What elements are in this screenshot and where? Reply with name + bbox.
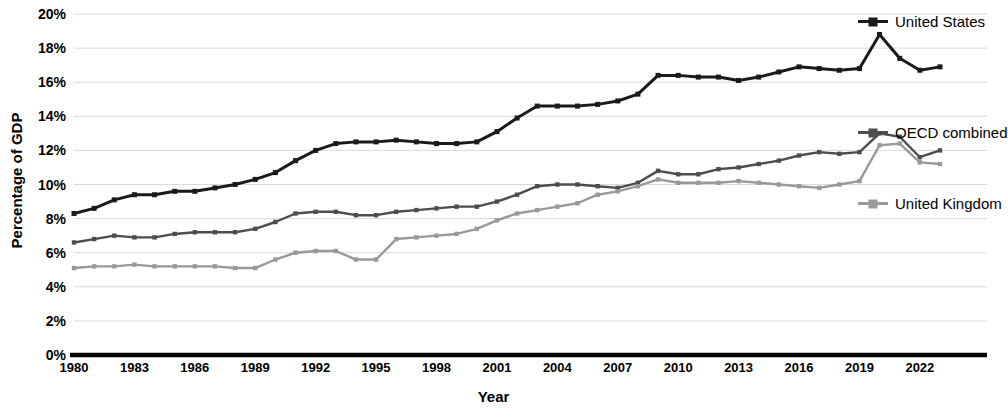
- x-axis-tick-label: 2007: [603, 360, 632, 375]
- x-axis-tick-labels: 1980198319861989199219951998200120042007…: [0, 0, 987, 400]
- legend-item-united-states[interactable]: United States: [858, 13, 985, 30]
- x-axis-tick-label: 2013: [724, 360, 753, 375]
- legend-item-oecd-combined[interactable]: OECD combined: [858, 124, 1008, 141]
- x-axis-tick-label: 2001: [482, 360, 511, 375]
- x-axis-tick-label: 1986: [180, 360, 209, 375]
- legend-marker-icon: [869, 17, 878, 26]
- x-axis-title: Year: [0, 388, 987, 405]
- legend-swatch: [858, 131, 888, 134]
- legend-item-united-kingdom[interactable]: United Kingdom: [858, 195, 1002, 212]
- legend-marker-icon: [869, 128, 878, 137]
- x-axis-tick-label: 2022: [905, 360, 934, 375]
- legend-swatch: [858, 202, 888, 205]
- x-axis-tick-label: 2016: [785, 360, 814, 375]
- legend-label: OECD combined: [895, 124, 1008, 141]
- legend-marker-icon: [869, 199, 878, 208]
- x-axis-tick-label: 1992: [301, 360, 330, 375]
- legend-label: United States: [895, 13, 985, 30]
- x-axis-tick-label: 2019: [845, 360, 874, 375]
- x-axis-tick-label: 1995: [362, 360, 391, 375]
- legend-label: United Kingdom: [895, 195, 1002, 212]
- x-axis-tick-label: 1980: [60, 360, 89, 375]
- legend-swatch: [858, 20, 888, 23]
- x-axis-tick-label: 2004: [543, 360, 572, 375]
- x-axis-tick-label: 1983: [120, 360, 149, 375]
- x-axis-tick-label: 1998: [422, 360, 451, 375]
- x-axis-tick-label: 2010: [664, 360, 693, 375]
- x-axis-tick-label: 1989: [241, 360, 270, 375]
